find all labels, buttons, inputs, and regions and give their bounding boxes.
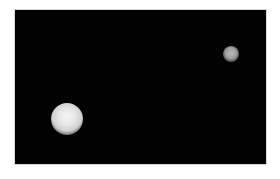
small-bright-blob: [223, 46, 239, 62]
large-bright-blob: [51, 103, 83, 135]
image-frame: [14, 9, 267, 165]
